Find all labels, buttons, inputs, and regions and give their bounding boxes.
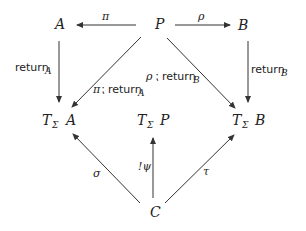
svg-text:return: return [15,61,49,74]
svg-text:return: return [108,83,142,96]
svg-text:Σ: Σ [51,120,59,130]
arrow-sigma [73,134,140,203]
label-rho-return-B: ρ ⁏ return B [145,70,200,85]
commutative-diagram: A P B T Σ A T Σ P T Σ B C π ρ return A r… [0,0,306,231]
arrow-tau [165,135,234,203]
label-tau: τ [203,165,210,178]
arrow-pi-return-A [72,37,141,107]
label-return-B: return B [251,63,288,78]
node-P: P [154,16,165,32]
label-pi-return-A: π ⁏ return A [92,83,145,98]
node-T-sigma-A: T Σ A [42,112,76,130]
svg-text:Σ: Σ [241,120,249,130]
svg-text:return: return [162,70,196,83]
node-T-sigma-P: T Σ P [137,112,170,130]
svg-text:B: B [254,112,265,128]
svg-text:⁏: ⁏ [101,83,105,96]
node-A: A [53,16,65,32]
node-C: C [150,204,161,220]
svg-text:Σ: Σ [146,120,154,130]
label-psi: !ψ [138,160,151,173]
node-B: B [237,17,248,33]
label-sigma: σ [93,167,101,180]
label-pi: π [101,10,110,23]
svg-text:return: return [251,63,285,76]
node-T-sigma-B: T Σ B [232,112,265,130]
label-rho: ρ [197,10,205,23]
svg-text:π: π [92,83,101,96]
label-return-A: return A [15,61,52,76]
svg-text:B: B [192,75,200,85]
svg-text:ρ: ρ [145,70,153,83]
svg-text:⁏: ⁏ [155,70,159,83]
svg-text:A: A [64,112,76,128]
svg-text:B: B [280,68,288,78]
svg-text:A: A [137,88,145,98]
svg-text:P: P [159,112,170,128]
svg-text:A: A [44,66,52,76]
